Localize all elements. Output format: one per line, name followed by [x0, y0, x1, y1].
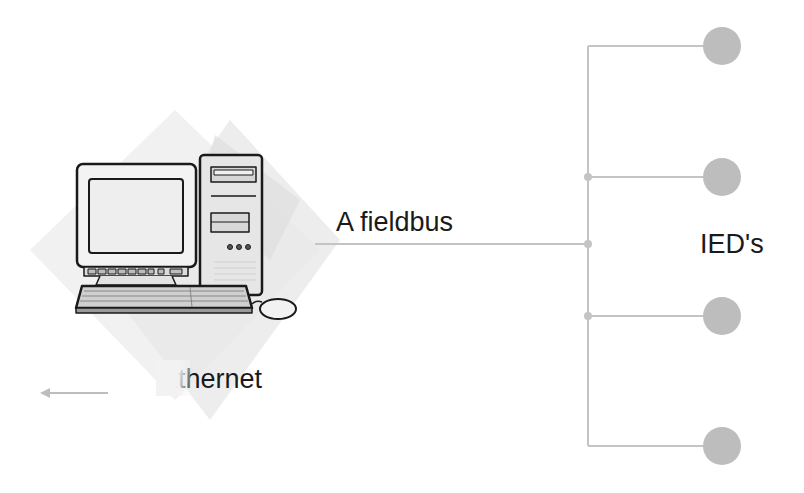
ied-node-1 — [703, 27, 741, 65]
bus-branches — [588, 46, 705, 446]
tower-case — [200, 155, 262, 295]
ied-node-3 — [703, 297, 741, 335]
network-diagram — [0, 0, 804, 493]
ieds-label: IED's — [700, 231, 764, 258]
keyboard — [76, 286, 252, 313]
ied-node-4 — [703, 427, 741, 465]
monitor — [77, 164, 196, 285]
ied-node-2 — [703, 158, 741, 196]
fieldbus-label: A fieldbus — [336, 209, 453, 236]
ethernet-label-occluder — [156, 360, 190, 396]
ethernet-arrow-icon — [40, 388, 108, 398]
